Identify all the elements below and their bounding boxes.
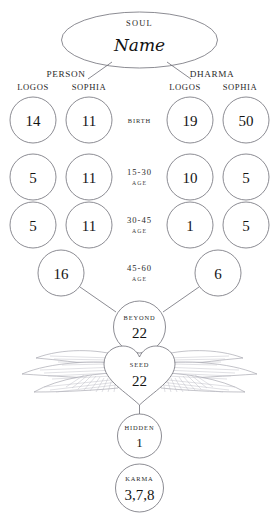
caption: BEYOND	[123, 314, 155, 321]
dharma-sophia-row-2[interactable]: 5	[223, 154, 269, 200]
hidden-node[interactable]: HIDDEN 1	[118, 414, 162, 458]
value: 10	[183, 170, 198, 186]
stage-word-45-60: AGE	[132, 276, 147, 282]
column-title-person-sophia: SOPHIA	[72, 82, 107, 92]
connector-person-beyond	[80, 287, 116, 312]
value: 5	[242, 218, 250, 234]
dharma-merge-node[interactable]: 6	[195, 250, 241, 296]
stage-range-15-30: 15-30	[127, 167, 152, 177]
value: 22	[132, 325, 147, 341]
stage-range-30-45: 30-45	[127, 215, 152, 225]
value: 1	[186, 218, 194, 234]
value: 6	[214, 266, 222, 282]
caption: HIDDEN	[125, 424, 155, 431]
value: 50	[239, 113, 254, 129]
stage-label-birth: BIRTH	[128, 117, 151, 124]
person-sophia-row-1[interactable]: 11	[66, 97, 112, 143]
person-sophia-row-2[interactable]: 11	[66, 154, 112, 200]
soul-node[interactable]: SOUL Name	[62, 12, 218, 68]
person-logos-row-3[interactable]: 5	[10, 202, 56, 248]
dharma-sophia-row-1[interactable]: 50	[223, 97, 269, 143]
caption: KARMA	[125, 475, 153, 482]
soul-caption: SOUL	[126, 19, 153, 28]
value: 5	[242, 170, 250, 186]
value: 11	[82, 218, 96, 234]
person-sophia-row-3[interactable]: 11	[66, 202, 112, 248]
column-title-person-logos: LOGOS	[17, 82, 49, 92]
branch-title-dharma: DHARMA	[190, 69, 234, 79]
person-merge-node[interactable]: 16	[38, 250, 84, 296]
seed-node[interactable]: SEED 22	[104, 346, 175, 405]
value: 5	[29, 218, 37, 234]
value: 11	[82, 113, 96, 129]
stage-range-45-60: 45-60	[127, 263, 152, 273]
value: 11	[82, 170, 96, 186]
value: 1	[136, 435, 143, 450]
branch-title-person: PERSON	[47, 69, 86, 79]
soul-name: Name	[113, 35, 165, 55]
value: 14	[26, 113, 42, 129]
dharma-logos-row-2[interactable]: 10	[167, 154, 213, 200]
column-title-dharma-logos: LOGOS	[169, 82, 201, 92]
value: 19	[183, 113, 198, 129]
soul-numerology-diagram: SOUL Name PERSON LOGOS SOPHIA DHARMA LOG…	[0, 0, 279, 522]
karma-node[interactable]: KARMA 3,7,8	[116, 464, 164, 512]
beyond-node[interactable]: BEYOND 22	[114, 301, 166, 353]
person-logos-row-1[interactable]: 14	[10, 97, 56, 143]
value: 16	[54, 266, 70, 282]
stage-word-15-30: AGE	[132, 180, 147, 186]
dharma-logos-row-3[interactable]: 1	[167, 202, 213, 248]
dharma-sophia-row-3[interactable]: 5	[223, 202, 269, 248]
value: 5	[29, 170, 37, 186]
person-logos-row-2[interactable]: 5	[10, 154, 56, 200]
column-title-dharma-sophia: SOPHIA	[223, 82, 258, 92]
stage-word-30-45: AGE	[132, 228, 147, 234]
value: 22	[132, 373, 147, 389]
connector-dharma-beyond	[163, 287, 199, 312]
caption: SEED	[130, 361, 150, 368]
dharma-logos-row-1[interactable]: 19	[167, 97, 213, 143]
value: 3,7,8	[125, 487, 155, 503]
